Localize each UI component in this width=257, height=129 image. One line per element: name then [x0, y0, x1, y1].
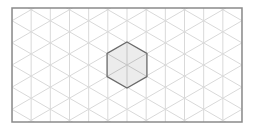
isometric-grid-diagram	[0, 0, 257, 129]
